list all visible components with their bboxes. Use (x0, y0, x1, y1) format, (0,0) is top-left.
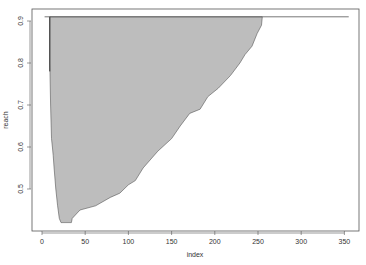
data-layer (45, 17, 349, 223)
x-tick-label: 250 (252, 238, 264, 245)
x-tick-label: 150 (166, 238, 178, 245)
reachability-chart: 050100150200250300350 0.50.60.70.80.9 in… (0, 0, 366, 265)
y-tick-label: 0.8 (17, 58, 24, 68)
x-axis: 050100150200250300350 (40, 231, 350, 245)
x-tick-label: 100 (123, 238, 135, 245)
x-tick-label: 300 (295, 238, 307, 245)
y-axis-title: reach (2, 111, 9, 129)
x-tick-label: 200 (209, 238, 221, 245)
x-tick-label: 0 (40, 238, 44, 245)
x-tick-label: 350 (339, 238, 351, 245)
reachability-area (50, 17, 262, 223)
y-tick-label: 0.5 (17, 184, 24, 194)
x-axis-title: index (187, 251, 204, 258)
y-axis: 0.50.60.70.80.9 (17, 16, 31, 194)
y-tick-label: 0.7 (17, 100, 24, 110)
y-tick-label: 0.6 (17, 142, 24, 152)
x-tick-label: 50 (81, 238, 89, 245)
y-tick-label: 0.9 (17, 16, 24, 26)
